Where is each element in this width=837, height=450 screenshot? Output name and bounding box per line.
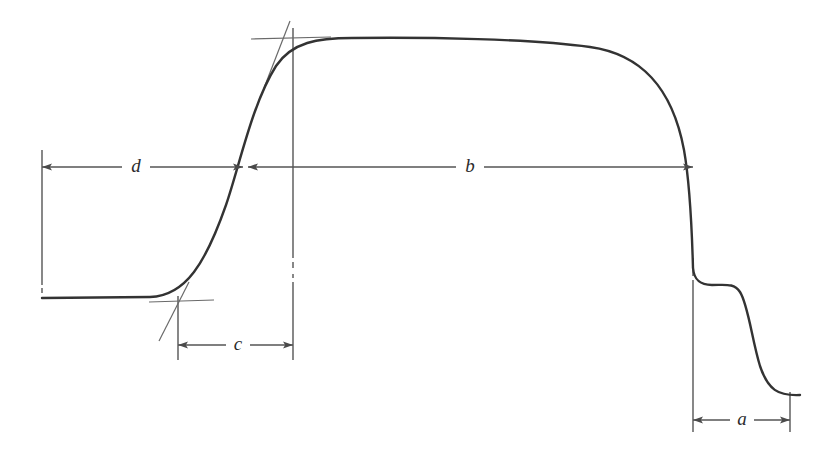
profile-diagram: d b c a bbox=[0, 0, 837, 450]
dimension-a-label: a bbox=[737, 408, 747, 429]
diagram-root: d b c a bbox=[0, 0, 837, 450]
dimension-c-label: c bbox=[234, 333, 243, 354]
dimension-d-label: d bbox=[131, 155, 141, 176]
diagram-background bbox=[0, 0, 837, 450]
dimension-b-label: b bbox=[465, 155, 475, 176]
